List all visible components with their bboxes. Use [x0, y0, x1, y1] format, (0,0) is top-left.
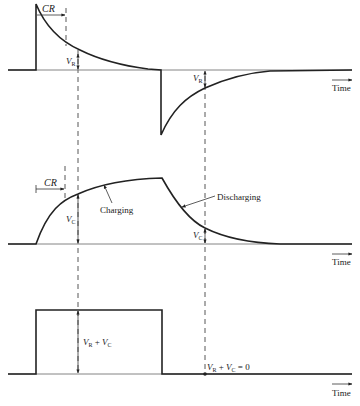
cr-label-2: CR — [44, 177, 57, 188]
discharging-label: Discharging — [217, 192, 261, 202]
vr-waveform — [8, 4, 352, 135]
vr-label-2: VR — [193, 73, 203, 84]
charging-label: Charging — [100, 205, 134, 215]
zero-label: VR + VC = 0 — [207, 362, 250, 373]
time-label-1: Time — [332, 83, 351, 93]
sum-waveform — [8, 310, 352, 374]
sum-label: VR + VC — [83, 337, 112, 348]
cr-label-1: CR — [42, 3, 55, 14]
panel-capacitor-voltage: CR VC Charging Discharging VC Time — [8, 166, 352, 267]
rc-circuit-waveform-diagram: CR VR VR Time CR VC Charging — [0, 0, 360, 406]
zero-point-dot — [203, 372, 207, 376]
discharging-pointer — [182, 196, 215, 207]
vc-waveform — [8, 178, 352, 244]
charging-pointer — [104, 185, 112, 203]
panel-resistor-voltage: CR VR VR Time — [8, 3, 352, 135]
vr-label-1: VR — [66, 56, 76, 67]
vc-label-1: VC — [66, 214, 76, 225]
vc-label-2: VC — [193, 230, 203, 241]
time-label-2: Time — [332, 257, 351, 267]
time-label-3: Time — [332, 388, 351, 398]
panel-sum-voltage: VR + VC VR + VC = 0 Time — [8, 310, 352, 398]
